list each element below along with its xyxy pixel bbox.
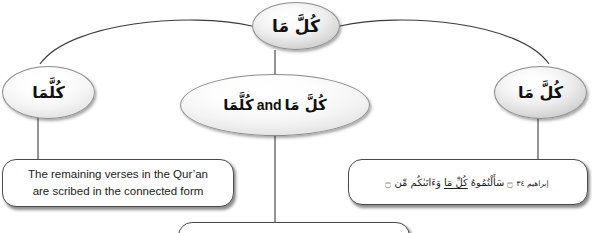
verse-text: إبراهيم ٣٤ ۝ سَأَلْتُمُوهُ كُلِّ مَا وَء… xyxy=(385,177,550,188)
node-root-kulla-ma[interactable]: كُلَّ مَا xyxy=(252,2,340,50)
box-bottom-cropped[interactable] xyxy=(178,222,410,233)
diagram-canvas: كُلَّ مَا كُلَّمَا كُلَّمَاandكُلَّ مَا … xyxy=(0,0,592,233)
verse-close-bracket-icon: ۝ xyxy=(507,177,513,188)
box-connected-form-note[interactable]: The remaining verses in the Qur’an are s… xyxy=(2,159,234,207)
box-connected-form-line1: The remaining verses in the Qur’an xyxy=(28,168,208,180)
node-both-forms-arabic-1: كُلَّمَا xyxy=(223,96,254,114)
box-connected-form-text: The remaining verses in the Qur’an are s… xyxy=(22,166,214,199)
node-both-forms-arabic-2: كُلَّ مَا xyxy=(285,96,327,114)
box-connected-form-line2: are scribed in the connected form xyxy=(33,185,204,197)
verse-highlighted-phrase: كُلِّ مَا xyxy=(444,177,468,188)
node-both-forms-conjunction: and xyxy=(254,97,285,113)
node-root-label: كُلَّ مَا xyxy=(272,16,320,36)
box-verse-example[interactable]: إبراهيم ٣٤ ۝ سَأَلْتُمُوهُ كُلِّ مَا وَء… xyxy=(348,159,588,205)
node-separated-form[interactable]: كُلَّ مَا xyxy=(494,66,587,119)
connector-root-to-left xyxy=(40,20,252,64)
verse-part-after: سَأَلْتُمُوهُ xyxy=(471,177,505,188)
node-separated-form-label: كُلَّ مَا xyxy=(518,83,563,102)
node-connected-form[interactable]: كُلَّمَا xyxy=(2,66,95,119)
verse-part-before: وَءَاتَىٰكُم مِّن xyxy=(394,177,440,188)
verse-open-bracket-icon: ۝ xyxy=(385,177,391,188)
node-connected-form-label: كُلَّمَا xyxy=(32,83,65,102)
verse-reference: إبراهيم ٣٤ xyxy=(516,179,550,188)
connector-root-to-right xyxy=(340,20,549,64)
node-both-forms-label: كُلَّمَاandكُلَّ مَا xyxy=(223,96,327,114)
node-both-forms[interactable]: كُلَّمَاandكُلَّ مَا xyxy=(180,74,370,136)
